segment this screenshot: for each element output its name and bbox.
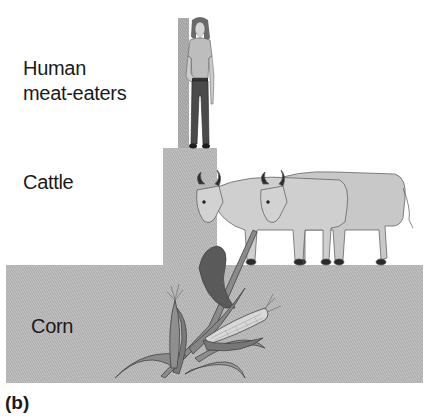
human-label-line1: Human <box>23 56 126 81</box>
panel-label: (b) <box>5 392 29 414</box>
cattle-level-label: Cattle <box>23 170 73 195</box>
woman-illustration <box>180 16 220 151</box>
human-label-line2: meat-eaters <box>23 81 126 106</box>
human-level-label: Human meat-eaters <box>23 56 126 106</box>
corn-level-label: Corn <box>31 314 73 339</box>
corn-plant-illustration <box>95 228 295 388</box>
